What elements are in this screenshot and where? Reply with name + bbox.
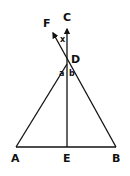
angle-label-x: x [60,35,66,44]
label-d: D [71,53,80,66]
label-b: B [112,152,120,165]
label-c: C [63,11,71,24]
geometry-diagram: C F D A E B x a b [0,0,130,176]
label-a: A [11,152,20,165]
label-f: F [43,17,51,30]
ray-bf [53,33,116,147]
label-e: E [63,152,71,165]
angle-label-a: a [59,69,64,78]
angle-label-b: b [69,69,75,78]
